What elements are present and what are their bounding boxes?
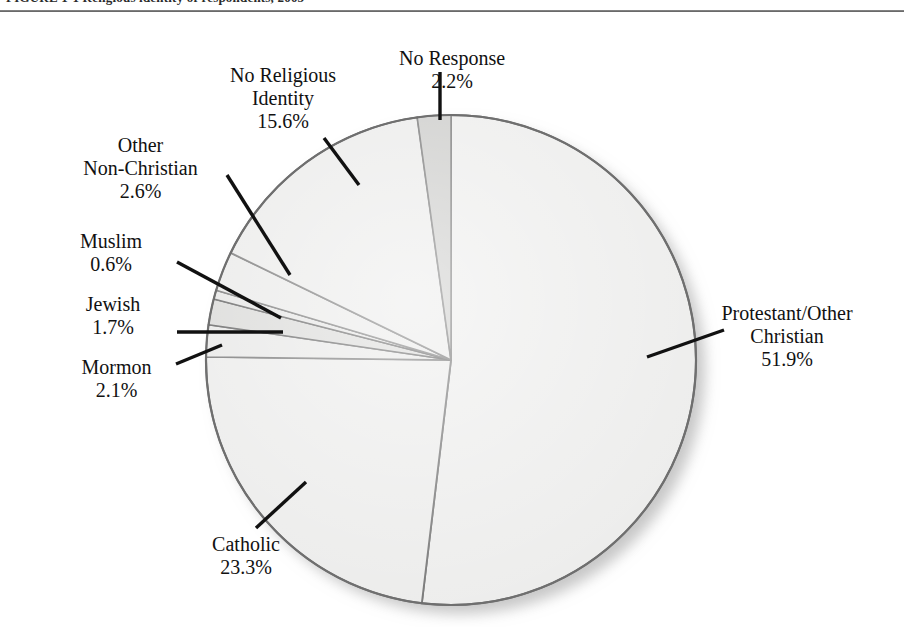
pie-chart-stage: Protestant/Other Christian 51.9%Catholic… bbox=[0, 12, 904, 627]
slice-label-other-non-christian: Other Non-Christian 2.6% bbox=[38, 134, 243, 204]
slice-label-protestant-line2: Christian bbox=[676, 325, 898, 348]
slice-label-other-non-christian-pct: 2.6% bbox=[38, 180, 243, 203]
slice-label-protestant-line1: Protestant/Other bbox=[676, 302, 898, 325]
slice-label-mormon: Mormon 2.1% bbox=[44, 356, 189, 402]
slice-label-no-religious-line2: Identity bbox=[183, 87, 383, 110]
slice-label-muslim-line1: Muslim bbox=[46, 230, 176, 253]
slice-label-other-non-christian-line1: Other bbox=[38, 134, 243, 157]
slice-label-muslim-pct: 0.6% bbox=[46, 253, 176, 276]
slice-label-no-response-pct: 2.2% bbox=[357, 70, 547, 93]
slice-label-no-religious-identity: No Religious Identity 15.6% bbox=[183, 64, 383, 134]
slice-label-jewish-pct: 1.7% bbox=[48, 316, 178, 339]
slice-label-catholic-pct: 23.3% bbox=[166, 556, 326, 579]
slice-label-jewish-line1: Jewish bbox=[48, 293, 178, 316]
slice-label-jewish: Jewish 1.7% bbox=[48, 293, 178, 339]
figure-root: FIGURE 1-1 Religious identity of respond… bbox=[0, 0, 904, 627]
slice-label-muslim: Muslim 0.6% bbox=[46, 230, 176, 276]
slice-label-no-religious-pct: 15.6% bbox=[183, 110, 383, 133]
slice-label-other-non-christian-line2: Non-Christian bbox=[38, 157, 243, 180]
slice-label-mormon-pct: 2.1% bbox=[44, 379, 189, 402]
figure-caption: FIGURE 1-1 Religious identity of respond… bbox=[6, 0, 304, 6]
slice-label-mormon-line1: Mormon bbox=[44, 356, 189, 379]
slice-label-no-religious-line1: No Religious bbox=[183, 64, 383, 87]
slice-label-catholic-line1: Catholic bbox=[166, 533, 326, 556]
slice-label-no-response: No Response 2.2% bbox=[357, 47, 547, 93]
pie-slice-group: Protestant/Other Christian 51.9%Catholic… bbox=[206, 115, 696, 605]
figure-caption-strip: FIGURE 1-1 Religious identity of respond… bbox=[0, 0, 904, 9]
slice-label-catholic: Catholic 23.3% bbox=[166, 533, 326, 579]
slice-label-protestant-pct: 51.9% bbox=[676, 348, 898, 371]
slice-label-no-response-line1: No Response bbox=[357, 47, 547, 70]
slice-label-protestant-other-christian: Protestant/Other Christian 51.9% bbox=[676, 302, 898, 372]
pie-slice-protestant-other-christian[interactable]: Protestant/Other Christian 51.9% bbox=[422, 115, 696, 605]
